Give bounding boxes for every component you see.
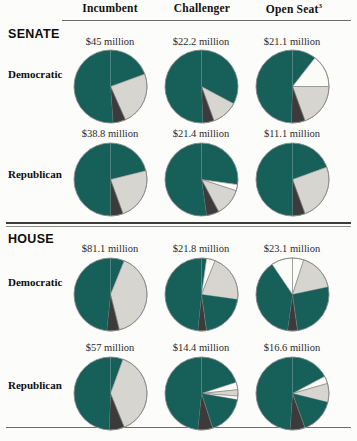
- pie-chart: [253, 255, 332, 334]
- party-label-house-republican: Republican: [8, 379, 62, 391]
- pie-chart: [162, 354, 241, 433]
- pie-amount-label: $11.1 million: [237, 128, 347, 139]
- pie-amount-label: $21.1 million: [237, 36, 347, 47]
- section-divider-rule-thick: [6, 222, 351, 224]
- header-rule: [62, 20, 351, 21]
- pie-slice-green: [73, 357, 110, 430]
- pie-amount-label: $23.1 million: [237, 243, 347, 254]
- column-header-open-seat-footnote: 3: [318, 2, 322, 10]
- pie-slice-green: [201, 294, 237, 330]
- section-divider-rule-thin: [6, 226, 351, 227]
- pie-slice-green: [73, 50, 112, 123]
- column-header-open-seat-label: Open Seat: [266, 3, 319, 15]
- pie-chart: [162, 255, 241, 334]
- pie-slice-green: [165, 258, 201, 331]
- pie-slice-green: [256, 143, 292, 216]
- column-header-incumbent-label: Incumbent: [82, 2, 137, 14]
- pie-chart: [253, 47, 332, 126]
- pie-slice-green: [164, 143, 206, 216]
- column-header-challenger: Challenger: [160, 2, 244, 14]
- pie-chart: [162, 140, 241, 219]
- pie-slice-green: [74, 143, 110, 216]
- pie-slice-green: [165, 50, 203, 123]
- party-label-senate-democratic: Democratic: [8, 68, 62, 80]
- pie-slice-green: [74, 258, 110, 331]
- pie-chart: [253, 140, 332, 219]
- party-label-senate-republican: Republican: [8, 168, 62, 180]
- pie-slice-green: [165, 357, 201, 430]
- pie-slice-green: [201, 143, 238, 185]
- column-header-incumbent: Incumbent: [68, 2, 152, 14]
- column-header-open-seat: Open Seat3: [250, 2, 338, 15]
- pie-chart: [71, 255, 150, 334]
- pie-chart: [71, 354, 150, 433]
- pie-amount-label: $16.6 million: [237, 342, 347, 353]
- pie-slice-green: [292, 286, 329, 330]
- pie-chart: [71, 140, 150, 219]
- pie-slice-green: [256, 357, 292, 430]
- figure-sheet: Incumbent Challenger Open Seat3 SENATE H…: [0, 0, 357, 441]
- pie-slice-green: [255, 50, 292, 123]
- pie-chart: [253, 354, 332, 433]
- column-header-row: Incumbent Challenger Open Seat3: [0, 0, 357, 22]
- column-header-challenger-label: Challenger: [174, 2, 230, 14]
- chamber-label-senate: SENATE: [8, 27, 60, 41]
- pie-chart: [71, 47, 150, 126]
- chamber-label-house: HOUSE: [8, 232, 54, 246]
- pie-chart: [162, 47, 241, 126]
- party-label-house-democratic: Democratic: [8, 276, 62, 288]
